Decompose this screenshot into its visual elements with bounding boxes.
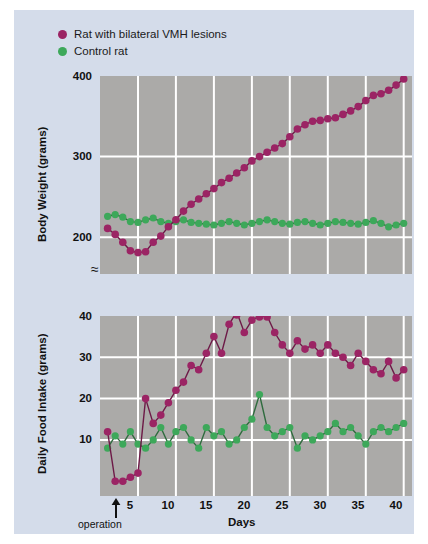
- body-weight-ytick-300: 300: [52, 150, 92, 162]
- figure-panel: Rat with bilateral VMH lesions Control r…: [14, 10, 414, 534]
- food-intake-ytick-10: 10: [52, 433, 92, 445]
- food-intake-ytick-30: 30: [52, 351, 92, 363]
- xtick-30: 30: [308, 499, 332, 511]
- food-intake-ytick-40: 40: [52, 310, 92, 322]
- xtick-40: 40: [384, 499, 408, 511]
- x-axis-label: Days: [228, 516, 256, 528]
- xtick-35: 35: [346, 499, 370, 511]
- body-weight-chart: Body Weight (grams) 400 300 200 ≈: [14, 10, 414, 276]
- food-intake-ytick-20: 20: [52, 392, 92, 404]
- food-intake-plot-area: [100, 316, 412, 496]
- food-intake-chart: Daily Food Intake (grams) 40 30 20 10: [14, 300, 414, 534]
- xtick-20: 20: [232, 499, 256, 511]
- body-weight-plot-area: [100, 76, 412, 274]
- food-intake-y-axis-label: Daily Food Intake (grams): [36, 333, 48, 474]
- xtick-15: 15: [194, 499, 218, 511]
- operation-label: operation: [78, 518, 122, 530]
- xtick-10: 10: [156, 499, 180, 511]
- body-weight-ytick-400: 400: [52, 70, 92, 82]
- xtick-25: 25: [270, 499, 294, 511]
- series-points-control-intake: [104, 391, 407, 452]
- body-weight-y-axis-label: Body Weight (grams): [36, 127, 48, 242]
- body-weight-ytick-200: 200: [52, 231, 92, 243]
- series-points-control-weight: [104, 211, 407, 230]
- y-axis-break-symbol: ≈: [91, 264, 99, 274]
- series-points-lesion-intake: [104, 316, 408, 485]
- xtick-5: 5: [118, 499, 142, 511]
